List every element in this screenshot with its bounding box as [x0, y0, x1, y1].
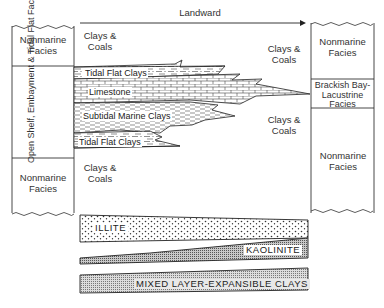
clays-coals-top-right: Clays & Coals	[266, 43, 302, 65]
left-middle-facies-label: Open Shelf, Embayment & Tidal Flat Facie…	[26, 69, 60, 163]
illite-label: ILLITE	[93, 223, 128, 233]
wedge-label-subtidal-marine: Subtidal Marine Clays	[82, 111, 172, 121]
clays-coals-bottom-right: Clays & Coals	[266, 114, 302, 136]
wedge-label-tidal-flat-lower: Tidal Flat Clays	[78, 137, 142, 147]
mixed-layer-label: MIXED LAYER-EXPANSIBLE CLAYS	[134, 279, 310, 289]
clays-coals-bottom-left: Clays & Coals	[82, 162, 118, 184]
left-bottom-facies-label: Nonmarine Facies	[12, 172, 74, 194]
kaolinite-label: KAOLINITE	[244, 245, 302, 255]
left-top-facies-label: Nonmarine Facies	[12, 34, 74, 56]
wedge-label-tidal-flat-upper: Tidal Flat Clays	[84, 68, 148, 78]
right-bottom-facies-label: Nonmarine Facies	[313, 150, 373, 172]
right-top-facies-label: Nonmarine Facies	[311, 36, 374, 58]
landward-arrow-label: Landward	[160, 7, 240, 18]
right-middle-facies-label: Brackish Bay-Lacustrine Facies	[311, 81, 374, 110]
wedge-label-limestone: Limestone	[88, 87, 132, 97]
clays-coals-top-left: Clays & Coals	[82, 30, 118, 52]
